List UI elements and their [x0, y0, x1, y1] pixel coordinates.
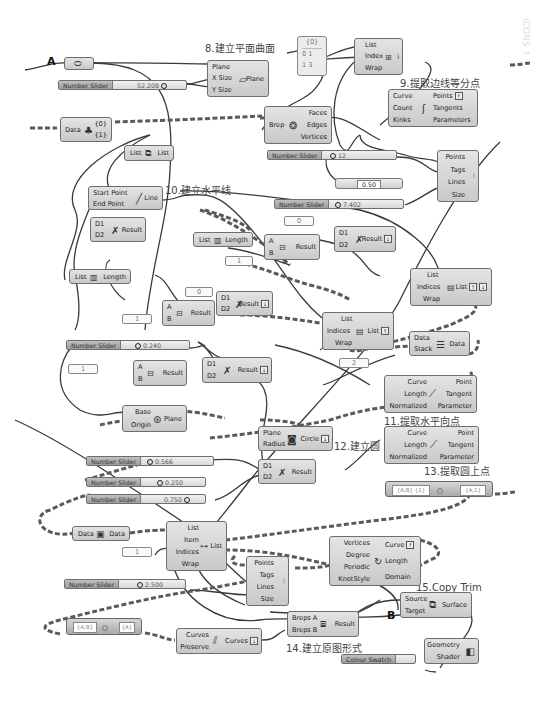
input-shader[interactable]: Shader [437, 653, 460, 661]
number-slider-0240[interactable]: Number Slider 0.240 [66, 340, 190, 350]
input-degree[interactable]: Degree [346, 551, 370, 559]
output-result[interactable]: Result [122, 226, 142, 234]
input-geometry[interactable]: Geometry [427, 641, 460, 649]
output-surface[interactable]: Surface [442, 601, 467, 609]
panel-two[interactable]: 2 [339, 358, 369, 368]
input-lines[interactable]: Lines [257, 583, 274, 591]
slider-knob[interactable] [135, 343, 141, 349]
input-d1[interactable]: D1 [207, 360, 216, 368]
output-parameters[interactable]: Parameters [433, 116, 471, 124]
input-size[interactable]: Size [260, 595, 274, 603]
input-a[interactable]: A [167, 303, 172, 311]
number-slider-2500[interactable]: Number Slider 2.500 [64, 579, 186, 589]
number-slider-size[interactable]: Number Slider 7.402 [274, 199, 404, 209]
input-tags[interactable]: Tags [451, 166, 466, 174]
input-source[interactable]: Source [405, 595, 428, 603]
output-plane[interactable]: Plane [246, 75, 264, 83]
distance-component-3[interactable]: D1 D2 ✗ Result↓ [216, 291, 273, 316]
input-periodic[interactable]: Periodic [344, 563, 370, 571]
output-tangent[interactable]: Tangent [446, 390, 472, 398]
input-d2[interactable]: D2 [221, 305, 230, 313]
input-end-point[interactable]: End Point [93, 200, 124, 208]
input-normalized[interactable]: Normalized [390, 402, 427, 410]
input-list[interactable]: List [341, 315, 353, 323]
line-component[interactable]: Start Point End Point ╱ Line [88, 186, 163, 210]
input-y-size[interactable]: Y Size [212, 86, 232, 94]
number-slider-0566[interactable]: Number Slider 0.566 [86, 456, 214, 466]
output-points[interactable]: Points↑ [433, 92, 463, 100]
plane-surface-component[interactable]: Plane X Size Y Size ▱ Plane [207, 60, 269, 97]
output-list[interactable]: List↑ [367, 327, 389, 335]
list-length-component-1[interactable]: List ▥ Length [193, 232, 253, 247]
subtraction-component-3[interactable]: A B ⊟ Result [133, 360, 187, 386]
evaluate-length-component-2[interactable]: Curve Length Normalized ⟋ Point Tangent … [384, 426, 479, 464]
output-tangents[interactable]: Tangents [433, 104, 463, 112]
input-length[interactable]: Length [404, 441, 427, 449]
input-stack[interactable]: Stack [414, 345, 432, 353]
interpolate-curve-component[interactable]: Vertices Degree Periodic KnotStyle ↻ Cur… [329, 536, 421, 586]
number-slider-xysize[interactable]: Number Slider 52.208 [58, 80, 187, 90]
input-x-size[interactable]: X Size [212, 74, 232, 82]
input-list[interactable]: List [365, 41, 377, 49]
slider-knob[interactable] [157, 480, 163, 486]
input-base[interactable]: Base [135, 408, 151, 416]
output-result[interactable]: Result [191, 309, 211, 317]
point-list-component-2[interactable]: Points Tags Lines Size ⁝ [246, 556, 289, 606]
output-branch-0[interactable]: {0} [94, 120, 107, 128]
output-list[interactable]: List [210, 542, 222, 550]
slider-knob[interactable] [335, 202, 341, 208]
custom-preview-component[interactable]: Geometry Shader ◧ [424, 638, 479, 664]
slider-knob[interactable] [330, 153, 336, 159]
output-result[interactable]: Result↓ [362, 235, 392, 243]
slider-knob[interactable] [161, 83, 167, 89]
input-curves[interactable]: Curves [186, 631, 209, 639]
list-item-mid-component[interactable]: List Indices Wrap ▤ List↑ [322, 312, 394, 350]
input-wrap[interactable]: Wrap [182, 560, 199, 568]
input-data[interactable]: Data [65, 126, 81, 134]
output-curve[interactable]: Curve↑ [385, 541, 414, 549]
output-vertices[interactable]: Vertices [301, 133, 327, 141]
output-length[interactable]: Length [385, 557, 408, 565]
output-edges[interactable]: Edges [307, 121, 327, 129]
number-slider-count[interactable]: Number Slider 12 [267, 150, 397, 160]
geometry-param-a[interactable]: ⬭ [64, 57, 94, 70]
output-point[interactable]: Point [456, 378, 472, 386]
input-b[interactable]: B [167, 315, 172, 323]
list-length-component-2[interactable]: List ▥ Length [69, 269, 131, 284]
input-breps-b[interactable]: Breps B [292, 626, 317, 634]
list-item-right-component[interactable]: List Indices Wrap ▤ List↑↓ [410, 268, 492, 306]
output-data[interactable]: Data [109, 530, 125, 538]
path-mapper-13[interactable]: {A;B} {1} {A;1} [385, 481, 493, 497]
stack-data-component[interactable]: Data Stack ☰ Data [409, 331, 470, 356]
output-data[interactable]: Data [449, 340, 465, 348]
plane-origin-component[interactable]: Base Origin ⊛ Plane [122, 405, 187, 432]
output-curves[interactable]: Curves↓ [225, 637, 258, 645]
input-points[interactable]: Points [254, 559, 274, 567]
output-list[interactable]: List [157, 149, 169, 157]
input-b[interactable]: B [138, 375, 143, 383]
input-indices[interactable]: Indices [417, 283, 440, 291]
distance-component-5[interactable]: D1 D2 ✗ Result [258, 459, 316, 484]
flip-list-component[interactable]: List ⧉ List [124, 145, 174, 161]
input-d2[interactable]: D2 [95, 231, 104, 239]
circle-component[interactable]: Plane Radius ◙ Circle↓ [258, 426, 333, 451]
data-viewer[interactable]: {0} 0 1 1 3 [297, 36, 327, 76]
output-faces[interactable]: Faces [309, 109, 327, 117]
input-list[interactable]: List [199, 236, 211, 244]
input-origin[interactable]: Origin [131, 421, 151, 429]
input-d1[interactable]: D1 [221, 294, 230, 302]
join-curves-component[interactable]: Curves Preserve ⫽ Curves↓ [176, 628, 262, 654]
input-indices[interactable]: Indices [176, 548, 199, 556]
input-length[interactable]: Length [404, 390, 427, 398]
input-plane[interactable]: Plane [212, 63, 230, 71]
distance-component-4[interactable]: D1 D2 ✗ Result↓ [202, 357, 272, 383]
input-d2[interactable]: D2 [207, 372, 216, 380]
input-wrap[interactable]: Wrap [335, 339, 352, 347]
input-a[interactable]: A [269, 237, 274, 245]
copy-trim-component[interactable]: Source Target ⧉ Surface [400, 592, 472, 618]
panel-one-d[interactable]: 1 [122, 547, 152, 557]
input-list[interactable]: List [427, 271, 439, 279]
input-d2[interactable]: D2 [339, 241, 348, 249]
input-curve[interactable]: Curve [393, 92, 412, 100]
output-list[interactable]: List↑↓ [455, 283, 487, 291]
